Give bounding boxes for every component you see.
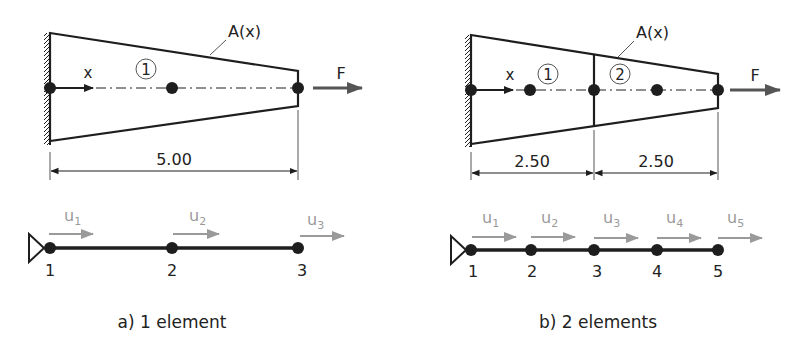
dof-label: u5 [727, 208, 744, 230]
element-number: 1 [543, 66, 553, 84]
fe-node [525, 244, 537, 256]
x-axis-label: x [84, 64, 93, 82]
dimension-label: 2.50 [638, 152, 674, 171]
fe-node [44, 242, 56, 254]
fe-node [712, 244, 724, 256]
node-number: 1 [45, 261, 55, 280]
element-number: 1 [141, 61, 151, 79]
node-number: 3 [592, 262, 602, 281]
node-number: 3 [297, 261, 307, 280]
support-triangle-icon [29, 234, 44, 262]
area-label: A(x) [636, 23, 669, 42]
fe-node [651, 244, 663, 256]
dof-label: u1 [482, 208, 499, 230]
node-number: 5 [713, 262, 723, 281]
fe-node [292, 242, 304, 254]
dimension-label: 2.50 [514, 152, 550, 171]
dof-label: u3 [307, 210, 324, 232]
dof-label: u2 [541, 208, 558, 230]
fe-node [465, 244, 477, 256]
fe-node [166, 242, 178, 254]
node-dot [44, 82, 56, 94]
dof-label: u2 [189, 206, 206, 228]
dimension-label: 5.00 [156, 150, 192, 169]
force-label: F [750, 66, 759, 85]
support-triangle-icon [451, 236, 466, 264]
area-leader-line [618, 41, 634, 57]
node-number: 1 [468, 262, 478, 281]
tapered-bar-fem-diagram: x 1 A(x) F 5.00 1 2 3 u1 u2 u3 a) [0, 0, 808, 356]
node-dot [166, 82, 178, 94]
node-dot [712, 84, 724, 96]
panel-a: x 1 A(x) F 5.00 1 2 3 u1 u2 u3 a) [29, 22, 362, 332]
x-axis-label: x [506, 66, 515, 84]
node-dot [651, 84, 663, 96]
dof-label: u4 [666, 208, 683, 230]
node-dot [292, 82, 304, 94]
node-number: 2 [167, 261, 177, 280]
node-number: 2 [527, 262, 537, 281]
fe-node [588, 244, 600, 256]
panel-caption: a) 1 element [118, 312, 227, 332]
area-label: A(x) [228, 22, 261, 41]
node-dot [588, 84, 600, 96]
element-number: 2 [615, 66, 625, 84]
force-label: F [336, 64, 345, 83]
dof-label: u3 [603, 208, 620, 230]
node-dot [524, 84, 536, 96]
area-leader-line [210, 40, 226, 55]
node-dot [465, 84, 477, 96]
panel-caption: b) 2 elements [539, 312, 657, 332]
node-number: 4 [652, 262, 662, 281]
dof-label: u1 [64, 206, 81, 228]
panel-b: x 1 2 A(x) F 2.50 2.50 1 2 3 4 5 [451, 23, 780, 332]
